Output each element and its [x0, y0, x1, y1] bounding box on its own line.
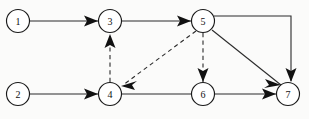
edge-5-to-4-dashed [123, 31, 196, 85]
arrowhead-5-to-4 [121, 81, 137, 90]
node-5-label: 5 [201, 16, 206, 27]
node-group: 1 2 3 4 5 6 [7, 10, 300, 106]
node-7-label: 7 [286, 89, 291, 100]
node-5[interactable]: 5 [192, 10, 215, 33]
arrowhead-4-to-3 [105, 34, 116, 48]
node-2[interactable]: 2 [7, 83, 30, 106]
directed-graph: 1 2 3 4 5 6 [0, 0, 309, 119]
node-1[interactable]: 1 [7, 10, 30, 33]
arrowhead-5-to-6 [198, 68, 209, 82]
node-3-label: 3 [108, 16, 113, 27]
node-4-label: 4 [108, 89, 113, 100]
edge-group-solid [30, 16, 291, 94]
diagram-canvas: 1 2 3 4 5 6 [0, 0, 309, 119]
edge-5-to-7-elbow [214, 16, 291, 81]
node-6-label: 6 [201, 89, 206, 100]
node-1-label: 1 [16, 16, 21, 27]
node-7[interactable]: 7 [277, 83, 300, 106]
edge-5-to-7-diagonal [212, 30, 281, 85]
node-4[interactable]: 4 [99, 83, 122, 106]
node-6[interactable]: 6 [192, 83, 215, 106]
node-3[interactable]: 3 [99, 10, 122, 33]
node-2-label: 2 [16, 89, 21, 100]
edge-group-dashed [110, 31, 203, 85]
